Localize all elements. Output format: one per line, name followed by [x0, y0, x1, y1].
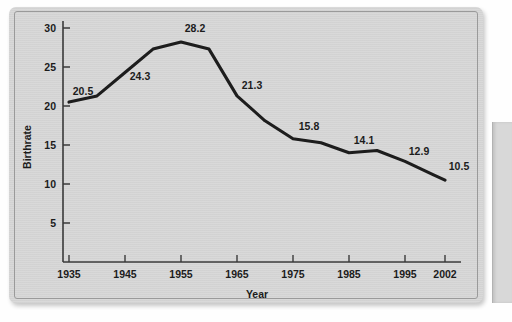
- data-label-1985: 14.1: [354, 134, 375, 146]
- data-label-group: 20.5 24.3 28.2 21.3 15.8 14.1 12.9 10.5: [73, 22, 470, 172]
- y-tick-label-5: 5: [50, 217, 56, 229]
- x-tick-label-2002: 2002: [433, 268, 457, 280]
- x-tick-label-1995: 1995: [393, 268, 417, 280]
- x-tick-label-1935: 1935: [57, 268, 81, 280]
- x-tick-label-1975: 1975: [281, 268, 305, 280]
- y-tick-label-25: 25: [44, 61, 56, 73]
- data-label-1965: 21.3: [242, 79, 263, 91]
- y-tick-label-15: 15: [44, 139, 56, 151]
- birthrate-series-line: [69, 42, 445, 180]
- figure-panel: 30 25 20 15 10 5 1935 1945 1955 1: [9, 7, 483, 303]
- x-axis-title: Year: [246, 288, 268, 300]
- data-label-1955: 28.2: [185, 22, 206, 34]
- x-tick-label-1965: 1965: [225, 268, 249, 280]
- data-label-1975: 15.8: [299, 120, 320, 132]
- x-tick-group: 1935 1945 1955 1965 1975 1985 1995 2002: [57, 255, 457, 280]
- birthrate-line-chart: 30 25 20 15 10 5 1935 1945 1955 1: [9, 7, 483, 303]
- y-tick-group: 30 25 20 15 10 5: [44, 22, 70, 229]
- axis-group: [63, 21, 461, 262]
- data-label-1935: 20.5: [73, 85, 94, 97]
- x-tick-label-1945: 1945: [113, 268, 137, 280]
- adjacent-page-sliver: [492, 122, 512, 303]
- y-tick-label-30: 30: [44, 22, 56, 34]
- y-tick-label-10: 10: [44, 178, 56, 190]
- y-axis-title: Birthrate: [21, 125, 33, 169]
- data-label-1995: 12.9: [409, 145, 430, 157]
- x-tick-label-1985: 1985: [337, 268, 361, 280]
- data-label-2002: 10.5: [449, 160, 470, 172]
- y-tick-label-20: 20: [44, 100, 56, 112]
- data-label-1945: 24.3: [130, 70, 151, 82]
- x-tick-label-1955: 1955: [169, 268, 193, 280]
